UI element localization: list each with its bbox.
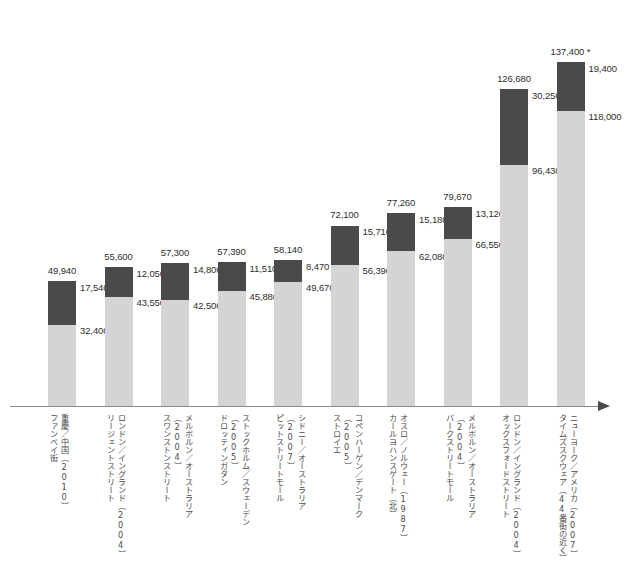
- bar-segment-upper: [48, 281, 76, 325]
- bar-segment-lower: [557, 111, 585, 406]
- bar-total-label: 49,940: [48, 266, 76, 276]
- category-label-10: ニューヨーク／アメリカ（2007） タイムズスクウェア（44番街の近く）: [556, 414, 586, 559]
- bar-column: [274, 260, 302, 406]
- bar-segment-lower: [500, 165, 528, 406]
- bar-total-label: 57,300: [161, 248, 189, 258]
- category-label-3: メルボルン／オーストラリア（2004） スワンストンストリート: [160, 414, 190, 559]
- bar-upper-value-label: 19,400: [589, 64, 617, 74]
- category-label-9: ロンドン／イングランド（2004） オックスフォードストリート: [499, 414, 529, 559]
- bar-segment-upper: [105, 267, 133, 297]
- bar-segment-lower: [331, 265, 359, 406]
- bar-segment-upper: [274, 260, 302, 281]
- bar-total-label: 72,100: [330, 210, 358, 220]
- category-label-2: ロンドン／イングランド（2004） リージェントストリート: [104, 414, 134, 559]
- bar-column: [48, 281, 76, 406]
- category-label-6: コペンハーゲン／デンマーク（2005） ストロイエ: [330, 414, 360, 559]
- bar-total-label: 57,390: [217, 247, 245, 257]
- category-label-text: コペンハーゲン／デンマーク（2005） ストロイエ: [330, 414, 363, 559]
- category-label-text: メルボルン／オーストラリア（2004） スワンストンストリート: [160, 414, 193, 559]
- bar-segment-upper: [161, 263, 189, 300]
- bar-total-label: 55,600: [104, 252, 132, 262]
- category-label-text: ニューヨーク／アメリカ（2007） タイムズスクウェア（44番街の近く）: [556, 414, 578, 559]
- bars-layer: 49,94017,54032,40055,60012,05043,55057,3…: [0, 0, 626, 563]
- bar-column: [557, 62, 585, 406]
- bar-segment-lower: [161, 300, 189, 406]
- category-label-text: ロンドン／イングランド（2004） リージェントストリート: [104, 414, 126, 559]
- bar-segment-lower: [218, 291, 246, 406]
- bar-segment-lower: [387, 251, 415, 406]
- category-label-4: ストックホルム／スウェーデン（2005） ドロッティンガタン: [217, 414, 247, 559]
- bar-column: [161, 263, 189, 406]
- bar-column: [105, 267, 133, 406]
- bar-column: [331, 226, 359, 407]
- bar-segment-upper: [444, 207, 472, 240]
- bar-total-label: 137,400 *: [551, 47, 591, 57]
- bar-column: [218, 262, 246, 406]
- bar-segment-lower: [274, 282, 302, 406]
- bar-total-label: 77,260: [387, 198, 415, 208]
- category-label-text: オスロ／ノルウェー（1987） カールヨハンスゲート（北）: [386, 414, 408, 559]
- category-label-1: 重慶／中国（2010） ファンベイ街: [47, 414, 77, 559]
- bar-segment-upper: [557, 62, 585, 111]
- bar-total-label: 126,680: [497, 74, 531, 84]
- category-label-text: シドニー／オーストラリア（2007） ピットストリートモール: [273, 414, 306, 559]
- bar-segment-lower: [444, 239, 472, 406]
- category-label-7: オスロ／ノルウェー（1987） カールヨハンスゲート（北）: [386, 414, 416, 559]
- bar-chart: 49,94017,54032,40055,60012,05043,55057,3…: [0, 0, 626, 563]
- bar-column: [500, 89, 528, 406]
- bar-segment-upper: [218, 262, 246, 291]
- bar-column: [387, 213, 415, 406]
- category-label-text: ストックホルム／スウェーデン（2005） ドロッティンガタン: [217, 414, 250, 559]
- bar-total-label: 79,670: [443, 192, 471, 202]
- bar-upper-value-label: 8,470: [306, 262, 329, 272]
- category-label-text: メルボルン／オーストラリア（2004） バークストリートモール: [443, 414, 476, 559]
- bar-segment-upper: [331, 226, 359, 265]
- bar-segment-upper: [387, 213, 415, 251]
- category-label-5: シドニー／オーストラリア（2007） ピットストリートモール: [273, 414, 303, 559]
- category-label-8: メルボルン／オーストラリア（2004） バークストリートモール: [443, 414, 473, 559]
- bar-column: [444, 207, 472, 406]
- category-label-text: ロンドン／イングランド（2004） オックスフォードストリート: [499, 414, 521, 559]
- bar-segment-lower: [105, 297, 133, 406]
- bar-total-label: 58,140: [274, 245, 302, 255]
- bar-segment-lower: [48, 325, 76, 406]
- bar-lower-value-label: 118,000: [589, 112, 622, 122]
- category-label-text: 重慶／中国（2010） ファンベイ街: [47, 414, 69, 559]
- bar-segment-upper: [500, 89, 528, 165]
